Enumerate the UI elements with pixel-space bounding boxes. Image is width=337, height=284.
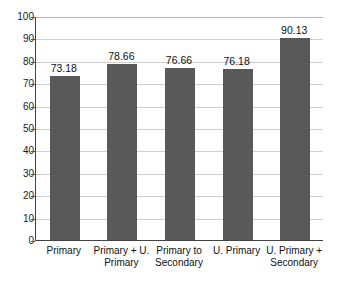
y-tick-label: 20 [4,191,34,201]
y-tick-label: 40 [4,146,34,156]
bar[interactable] [165,68,195,240]
bar-value-label: 78.66 [92,51,150,62]
y-tick-label: 90 [4,34,34,44]
y-tick-label: 70 [4,79,34,89]
y-tick-label: 100 [4,12,34,22]
y-tick-label: 10 [4,214,34,224]
bar[interactable] [107,64,137,240]
y-tick-mark [31,241,35,242]
plot-area [35,17,323,241]
y-tick-label: 60 [4,102,34,112]
x-category-label: U. Primary + Secondary [260,245,328,268]
y-tick-label: 30 [4,169,34,179]
gridline [36,17,323,18]
bar-chart: 0102030405060708090100 73.1878.6676.6676… [0,0,337,284]
y-tick-label: 80 [4,57,34,67]
bar[interactable] [223,69,253,240]
y-tick-label: 50 [4,124,34,134]
bar-value-label: 90.13 [265,25,323,36]
bar-value-label: 76.66 [150,55,208,66]
bar[interactable] [50,76,80,240]
bar-value-label: 73.18 [35,63,93,74]
bar-value-label: 76.18 [208,56,266,67]
bar[interactable] [280,38,310,240]
